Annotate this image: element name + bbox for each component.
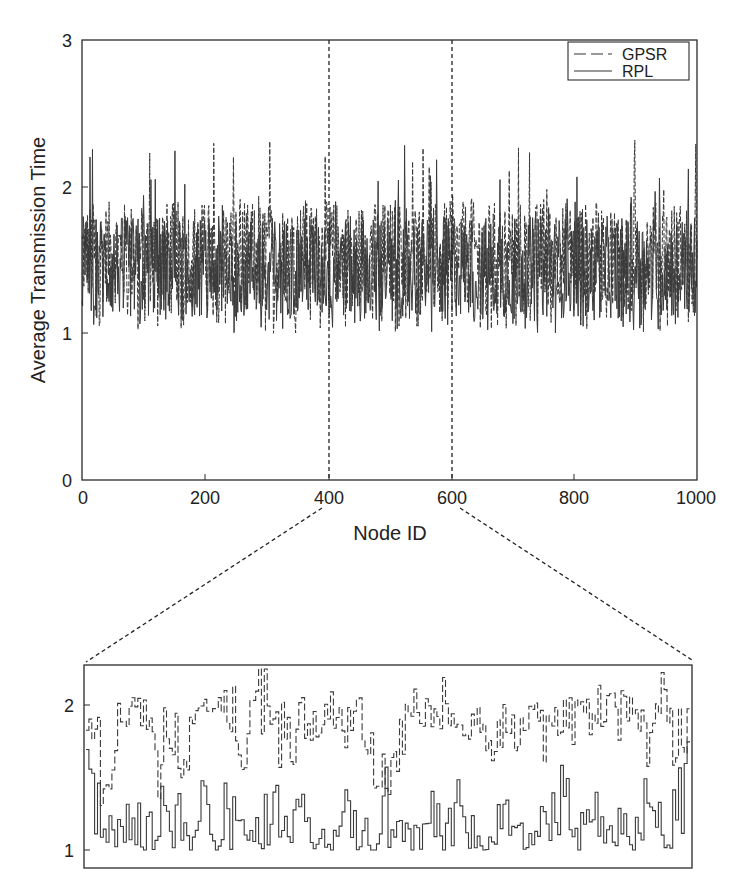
inset-series-rpl [86, 742, 690, 850]
figure: 0 1 2 3 0 200 400 600 800 1000 Node ID A… [0, 0, 741, 893]
zoom-connector-left [86, 508, 322, 662]
x-tick-label: 800 [559, 488, 589, 508]
main-series-lines [82, 140, 697, 333]
x-tick-label: 0 [78, 488, 88, 508]
x-axis: 0 200 400 600 800 1000 [78, 474, 716, 508]
y-axis-label: Average Transmission Time [27, 137, 49, 383]
x-tick-label: 600 [437, 488, 467, 508]
zoom-connector-right [460, 508, 692, 660]
legend-label-rpl: RPL [622, 63, 653, 80]
legend-label-gpsr: GPSR [622, 46, 667, 63]
inset-y-tick-label: 1 [64, 841, 74, 861]
x-tick-label: 1000 [676, 488, 716, 508]
y-tick-label: 2 [62, 178, 72, 198]
y-tick-label: 0 [62, 471, 72, 491]
x-axis-label: Node ID [353, 522, 426, 544]
x-tick-label: 200 [190, 488, 220, 508]
y-tick-label: 1 [62, 324, 72, 344]
inset-series-lines [86, 669, 690, 850]
y-tick-label: 3 [62, 31, 72, 51]
x-tick-label: 400 [314, 488, 344, 508]
inset-plot: 2 1 [64, 665, 692, 868]
series-rpl [82, 145, 697, 332]
legend: GPSR RPL [568, 42, 689, 80]
main-plot: 0 1 2 3 0 200 400 600 800 1000 Node ID A… [27, 31, 716, 544]
inset-y-tick-label: 2 [64, 696, 74, 716]
